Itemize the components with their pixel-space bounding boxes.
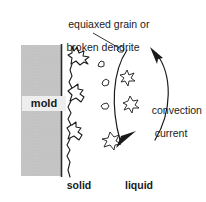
convection-arrowhead-bottom	[116, 131, 136, 148]
convection-line-2: current	[138, 128, 204, 140]
liquid-phase-label: liquid	[116, 180, 162, 192]
caption-equiaxed-grain: equiaxed grain or broken dendrite	[0, 7, 206, 78]
solidification-diagram: equiaxed grain or broken dendrite mold c…	[0, 0, 206, 202]
caption-line-1: equiaxed grain or	[68, 18, 149, 30]
convection-current-label: convection current	[138, 93, 204, 164]
convection-line-1: convection	[152, 104, 202, 116]
solid-phase-label: solid	[56, 180, 102, 192]
mold-label: mold	[22, 96, 66, 111]
caption-line-2: broken dendrite	[0, 42, 206, 54]
